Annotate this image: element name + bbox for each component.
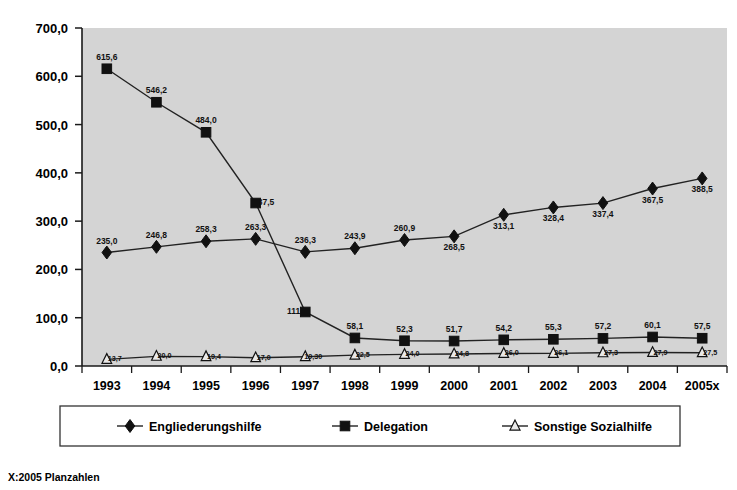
data-point-label: 313,1 [493, 221, 515, 231]
data-point-label: 24,0 [406, 349, 420, 358]
data-point-label: 263,3 [245, 222, 267, 232]
data-point-label: 243,9 [344, 231, 366, 241]
marker-square [499, 335, 509, 345]
data-point-label: 268,5 [443, 242, 465, 252]
chart-legend: EngliederungshilfeDelegationSonstige Soz… [60, 406, 680, 446]
line-chart: 0,0100,0200,0300,0400,0500,0600,0700,0 1… [0, 0, 737, 490]
data-point-label: 111,9 [287, 306, 308, 316]
data-point-label: 258,3 [195, 224, 217, 234]
marker-square [449, 336, 459, 346]
marker-square [350, 333, 360, 343]
x-tick-label: 2004 [639, 379, 667, 393]
y-tick-label: 700,0 [35, 21, 68, 36]
marker-square [340, 421, 350, 431]
data-point-label: 22,5 [356, 350, 370, 359]
data-point-label: 615,6 [96, 52, 118, 62]
legend-label: Delegation [364, 420, 428, 434]
marker-square [400, 336, 410, 346]
x-tick-label: 2002 [539, 379, 567, 393]
data-point-label: 27,3 [604, 348, 618, 357]
y-tick-label: 300,0 [35, 214, 68, 229]
data-point-label: 246,8 [146, 230, 168, 240]
data-point-label: 367,5 [642, 195, 664, 205]
data-point-label: 51,7 [446, 324, 463, 334]
y-tick-label: 600,0 [35, 69, 68, 84]
x-tick-label: 2003 [589, 379, 617, 393]
data-point-label: 546,2 [146, 85, 168, 95]
data-point-label: 58,1 [347, 321, 364, 331]
legend-label: Sonstige Sozialhilfe [534, 420, 652, 434]
data-point-label: 57,2 [595, 321, 612, 331]
data-point-label: 20,0 [157, 351, 171, 360]
data-point-label: 17,0 [257, 353, 271, 362]
data-point-label: 13,7 [108, 354, 122, 363]
data-point-label: 26,0 [505, 348, 519, 357]
data-point-label: 54,2 [495, 323, 512, 333]
x-tick-label: 1994 [143, 379, 171, 393]
data-point-label: 235,0 [96, 236, 118, 246]
data-point-label: 260,9 [394, 223, 416, 233]
chart-container: 0,0100,0200,0300,0400,0500,0600,0700,0 1… [0, 0, 737, 490]
data-point-label: 52,3 [396, 324, 413, 334]
data-point-label: 328,4 [543, 213, 565, 223]
marker-square [102, 64, 112, 74]
y-tick-label: 0,0 [50, 359, 68, 374]
data-point-label: 337,4 [592, 209, 614, 219]
data-point-label: 24,8 [455, 349, 469, 358]
data-point-label: 388,5 [692, 184, 714, 194]
data-point-label: 19,4 [207, 352, 221, 361]
data-point-label: 55,3 [545, 322, 562, 332]
marker-square [697, 333, 707, 343]
x-tick-label: 1993 [93, 379, 121, 393]
marker-square [598, 334, 608, 344]
data-point-label: 19,30 [304, 352, 322, 361]
data-point-label: 27,5 [703, 348, 717, 357]
marker-square [648, 332, 658, 342]
data-point-label: 236,3 [295, 235, 317, 245]
x-tick-label: 1997 [291, 379, 319, 393]
y-tick-label: 500,0 [35, 118, 68, 133]
y-tick-label: 400,0 [35, 166, 68, 181]
data-point-label: 484,0 [195, 115, 217, 125]
data-point-label: 57,5 [694, 321, 711, 331]
y-tick-label: 100,0 [35, 311, 68, 326]
x-tick-label: 1998 [341, 379, 369, 393]
marker-square [152, 97, 162, 107]
x-tick-label: 2005x [685, 379, 720, 393]
x-tick-label: 1996 [242, 379, 270, 393]
x-tick-label: 2000 [440, 379, 468, 393]
data-point-label: 60,1 [644, 320, 661, 330]
marker-square [549, 334, 559, 344]
x-tick-label: 1999 [391, 379, 419, 393]
data-point-label: 27,9 [654, 348, 668, 357]
marker-square [201, 127, 211, 137]
x-tick-label: 2001 [490, 379, 518, 393]
legend-label: Engliederungshilfe [149, 420, 262, 434]
footnote: X:2005 Planzahlen [8, 471, 100, 483]
data-point-label: 26,1 [554, 348, 568, 357]
data-point-label: 337,5 [253, 197, 275, 207]
plot-background [82, 28, 727, 366]
y-tick-label: 200,0 [35, 262, 68, 277]
x-tick-label: 1995 [192, 379, 220, 393]
